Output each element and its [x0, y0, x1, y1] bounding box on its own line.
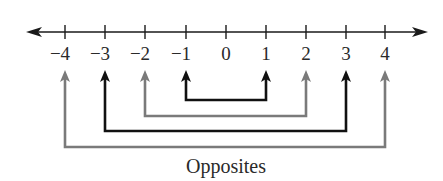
number-line-axis: [26, 27, 428, 37]
number-line-diagram: −4 −3 −2 −1 0 1 2 3 4 Opposites: [0, 0, 443, 181]
tick-label: −4: [50, 43, 71, 64]
tick-label: 3: [341, 43, 351, 64]
tick-label: −1: [171, 43, 191, 64]
tick-label: 1: [261, 43, 271, 64]
tick-label: 4: [380, 43, 390, 64]
tick-label: −2: [130, 43, 150, 64]
tick-labels: −4 −3 −2 −1 0 1 2 3 4: [50, 43, 390, 64]
diagram-caption: Opposites: [186, 155, 266, 178]
bracket-pair-2: [140, 70, 311, 116]
bracket-pair-1: [181, 70, 271, 100]
tick-label: 2: [301, 43, 311, 64]
tick-label: 0: [221, 43, 231, 64]
tick-label: −3: [90, 43, 110, 64]
